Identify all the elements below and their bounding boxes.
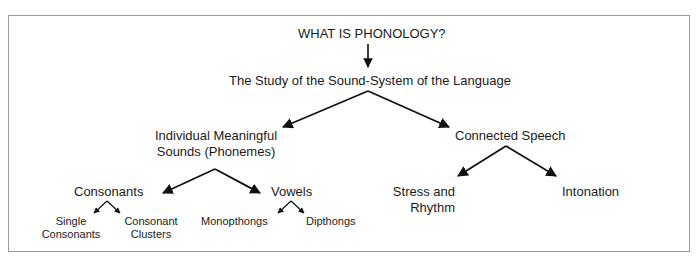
arrow-individual-to-vowels	[215, 169, 260, 193]
root-node: WHAT IS PHONOLOGY?	[298, 26, 446, 42]
individual-sounds-node: Individual Meaningful Sounds (Phonemes)	[146, 128, 286, 159]
arrow-definition-to-individual	[283, 91, 368, 127]
single-line1: Single	[38, 215, 104, 228]
consonants-node: Consonants	[74, 184, 143, 200]
intonation-node: Intonation	[562, 184, 619, 200]
stress-rhythm-node: Stress and Rhythm	[385, 184, 455, 215]
monopthongs-node: Monopthongs	[201, 215, 268, 228]
individual-line2: Sounds (Phonemes)	[146, 144, 286, 160]
clusters-line1: Consonant	[118, 215, 184, 228]
arrow-vowels-to-dipthongs	[291, 201, 304, 213]
single-consonants-node: Single Consonants	[38, 215, 104, 241]
definition-node: The Study of the Sound-System of the Lan…	[229, 73, 511, 89]
arrow-vowels-to-monopthongs	[278, 201, 291, 213]
arrow-connected-to-intonation	[506, 146, 556, 176]
vowels-node: Vowels	[271, 184, 312, 200]
stress-line1: Stress and	[385, 184, 455, 200]
clusters-line2: Clusters	[118, 228, 184, 241]
arrow-consonants-to-single	[94, 201, 107, 213]
arrow-consonants-to-clusters	[107, 201, 120, 213]
connected-speech-node: Connected Speech	[455, 128, 566, 144]
stress-line2: Rhythm	[385, 200, 455, 216]
single-line2: Consonants	[38, 228, 104, 241]
arrow-definition-to-connected	[368, 91, 449, 127]
individual-line1: Individual Meaningful	[146, 128, 286, 144]
arrow-individual-to-consonants	[163, 169, 215, 193]
arrow-connected-to-stress	[458, 146, 506, 176]
dipthongs-node: Dipthongs	[306, 215, 356, 228]
consonant-clusters-node: Consonant Clusters	[118, 215, 184, 241]
